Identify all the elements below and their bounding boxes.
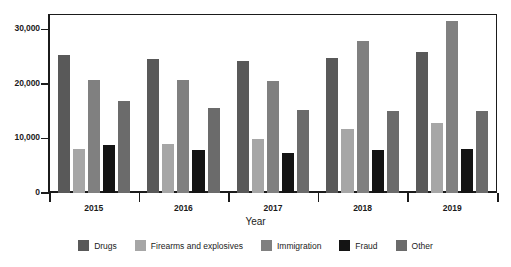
- bar[interactable]: [326, 58, 338, 193]
- bar[interactable]: [476, 111, 488, 193]
- legend-item-label: Drugs: [94, 241, 117, 251]
- legend-item[interactable]: Firearms and explosives: [135, 240, 243, 251]
- bar-series-container: [49, 14, 497, 193]
- y-axis-tick-label: 0: [2, 187, 40, 197]
- legend-item[interactable]: Other: [396, 240, 433, 251]
- x-axis-category-label: 2016: [153, 203, 213, 213]
- bar[interactable]: [192, 150, 204, 193]
- legend-item[interactable]: Immigration: [261, 240, 321, 251]
- bar[interactable]: [357, 41, 369, 193]
- bar[interactable]: [252, 139, 264, 193]
- bar[interactable]: [372, 150, 384, 193]
- legend-item[interactable]: Fraud: [339, 240, 377, 251]
- x-axis-tick: [228, 193, 230, 202]
- bar[interactable]: [297, 110, 309, 193]
- legend-item-label: Immigration: [277, 241, 321, 251]
- legend-item[interactable]: Drugs: [78, 240, 117, 251]
- bar[interactable]: [58, 55, 70, 193]
- legend-swatch-icon: [135, 240, 146, 251]
- bar[interactable]: [341, 129, 353, 193]
- legend-swatch-icon: [261, 240, 272, 251]
- bar[interactable]: [177, 80, 189, 194]
- legend-swatch-icon: [339, 240, 350, 251]
- y-axis-tick-label: 20,000: [2, 78, 40, 88]
- bar[interactable]: [387, 111, 399, 193]
- x-axis-tick: [407, 193, 409, 202]
- y-axis-tick: [41, 138, 49, 140]
- bar[interactable]: [147, 59, 159, 193]
- bar[interactable]: [461, 149, 473, 193]
- x-axis-category-label: 2015: [64, 203, 124, 213]
- bar[interactable]: [73, 149, 85, 193]
- x-axis-tick: [139, 193, 141, 202]
- bar[interactable]: [416, 52, 428, 193]
- legend-item-label: Firearms and explosives: [151, 241, 243, 251]
- bar[interactable]: [446, 21, 458, 193]
- bar[interactable]: [118, 101, 130, 193]
- legend-item-label: Fraud: [355, 241, 377, 251]
- bar[interactable]: [162, 144, 174, 193]
- x-axis-title: Year: [0, 216, 511, 227]
- bar[interactable]: [103, 145, 115, 193]
- y-axis-tick: [41, 29, 49, 31]
- bar[interactable]: [237, 61, 249, 193]
- legend-item-label: Other: [412, 241, 433, 251]
- y-axis-tick-label: 30,000: [2, 23, 40, 33]
- x-axis-tick: [497, 193, 499, 202]
- y-axis-tick-label: 10,000: [2, 132, 40, 142]
- x-axis-tick: [318, 193, 320, 202]
- bar[interactable]: [431, 123, 443, 193]
- chart-page: 010,00020,00030,000 20152016201720182019…: [0, 0, 511, 267]
- bar[interactable]: [208, 108, 220, 193]
- legend-swatch-icon: [396, 240, 407, 251]
- y-axis-tick: [41, 83, 49, 85]
- x-axis-category-label: 2019: [422, 203, 482, 213]
- x-axis-category-label: 2017: [243, 203, 303, 213]
- x-axis-category-label: 2018: [333, 203, 393, 213]
- bar[interactable]: [267, 81, 279, 193]
- chart-legend: DrugsFirearms and explosivesImmigrationF…: [0, 240, 511, 251]
- legend-swatch-icon: [78, 240, 89, 251]
- bar[interactable]: [282, 153, 294, 193]
- x-axis-tick: [49, 193, 51, 202]
- bar[interactable]: [88, 80, 100, 193]
- y-axis-tick: [41, 192, 49, 194]
